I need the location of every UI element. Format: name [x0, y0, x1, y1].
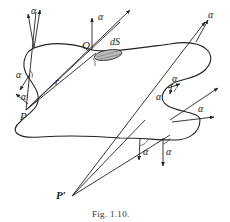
label-r: r: [55, 76, 59, 87]
normal-vectors: [16, 10, 218, 166]
label-alpha: α: [208, 9, 214, 20]
label-P-prime: P′: [56, 189, 66, 201]
label-alpha: α: [198, 103, 204, 114]
label-alpha: α: [21, 91, 27, 102]
label-alpha: α: [98, 11, 104, 22]
label-alpha: α: [31, 5, 37, 16]
diagram-canvas: α α α α α α α α α α Q dS r P P′ Fig. 1.1…: [0, 0, 230, 222]
figure-1-10: α α α α α α α α α α Q dS r P P′ Fig. 1.1…: [0, 0, 230, 222]
label-P: P: [19, 110, 27, 122]
angle-arcs: [30, 58, 178, 146]
rays-from-P: [26, 10, 130, 110]
label-alpha: α: [16, 69, 22, 80]
labels: α α α α α α α α α α Q dS r P P′: [16, 5, 214, 201]
label-alpha: α: [166, 146, 172, 157]
label-alpha: α: [143, 146, 149, 157]
label-alpha: α: [172, 73, 178, 84]
label-dS: dS: [110, 36, 120, 47]
figure-caption: Fig. 1.10.: [92, 209, 130, 219]
label-alpha: α: [156, 91, 162, 102]
label-Q: Q: [82, 39, 90, 51]
